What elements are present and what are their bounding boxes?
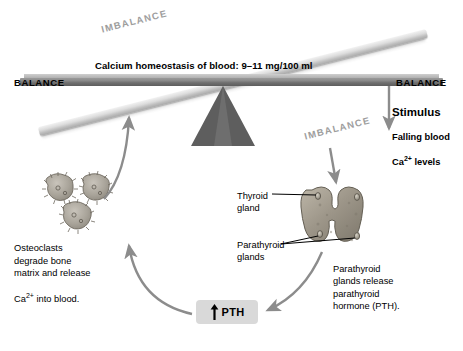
leader-lines xyxy=(272,194,355,244)
arrow-pth-to-osteoclasts xyxy=(129,246,192,314)
imbalance-label-top: IMBALANCE xyxy=(100,7,168,34)
osteoclasts-caption: Osteoclasts degrade bone matrix and rele… xyxy=(14,230,134,306)
osteoclasts-caption-last-suffix: into blood. xyxy=(34,294,80,304)
osteoclast-cells xyxy=(42,171,113,234)
pth-label: PTH xyxy=(222,306,245,318)
fulcrum-highlight xyxy=(214,86,232,146)
stimulus-body: Falling blood Ca2+ levels xyxy=(392,120,450,169)
homeostasis-banner-text: Calcium homeostasis of blood: 9–11 mg/10… xyxy=(95,60,313,71)
osteoclast-cell xyxy=(79,171,113,205)
stimulus-line2-superscript: 2+ xyxy=(404,155,412,162)
stimulus-line1: Falling blood xyxy=(392,132,450,142)
stimulus-title: Stimulus xyxy=(392,106,441,120)
balance-label-left: BALANCE xyxy=(14,77,65,88)
osteoclast-cell xyxy=(59,199,95,234)
parathyroid-gland-nodules xyxy=(315,193,359,240)
pth-box: PTH xyxy=(196,300,258,324)
parathyroid-glands-label: Parathyroid glands xyxy=(237,239,285,264)
thyroid-gland-label: Thyroid gland xyxy=(237,190,268,215)
up-arrow-icon xyxy=(210,304,219,320)
imbalance-label-bottom: IMBALANCE xyxy=(303,114,371,141)
stimulus-line2-suffix: levels xyxy=(412,157,440,167)
balance-label-right: BALANCE xyxy=(396,77,447,88)
osteoclast-cell xyxy=(42,172,78,204)
osteoclasts-caption-last-prefix: Ca xyxy=(14,294,26,304)
thyroid-gland-illustration xyxy=(272,187,363,244)
osteoclasts-caption-superscript: 2+ xyxy=(26,292,34,299)
stimulus-line2-prefix: Ca xyxy=(392,157,404,167)
parathyroid-caption: Parathyroid glands release parathyroid h… xyxy=(333,263,438,312)
balance-beam xyxy=(20,78,443,86)
arrow-to-thyroid xyxy=(330,148,336,182)
arrow-osteoclasts-to-balance xyxy=(104,118,129,199)
osteoclasts-caption-lines: Osteoclasts degrade bone matrix and rele… xyxy=(14,243,90,278)
calcium-homeostasis-diagram: BALANCE BALANCE IMBALANCE IMBALANCE Calc… xyxy=(0,0,463,351)
